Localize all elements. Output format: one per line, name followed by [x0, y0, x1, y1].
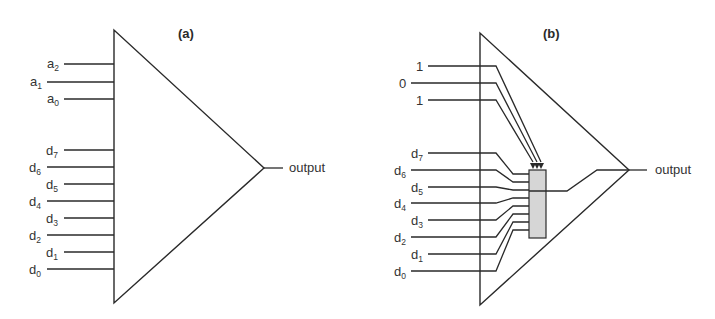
label-b-d2: d2 — [394, 230, 406, 247]
label-d4: d4 — [29, 194, 41, 211]
label-a0: a0 — [47, 91, 59, 108]
label-b-d1: d1 — [411, 247, 423, 264]
mux-triangle-b — [480, 33, 629, 305]
label-a1: a1 — [30, 74, 42, 91]
label-b-d6: d6 — [394, 163, 406, 180]
wire-b-d3 — [428, 206, 529, 220]
label-d7: d7 — [46, 143, 58, 160]
address-value-1: 0 — [399, 76, 406, 91]
panel-a-label: (a) — [178, 26, 194, 41]
output-label-b: output — [655, 162, 692, 177]
label-d0: d0 — [29, 262, 41, 279]
label-d3: d3 — [46, 211, 58, 228]
label-b-d7: d7 — [411, 146, 423, 163]
label-b-d4: d4 — [394, 196, 406, 213]
panel-b-label: (b) — [543, 26, 560, 41]
label-b-d0: d0 — [394, 264, 406, 281]
label-d6: d6 — [29, 160, 41, 177]
address-value-0: 1 — [416, 93, 423, 108]
wire-b-d4 — [411, 198, 529, 203]
label-d5: d5 — [46, 177, 58, 194]
selector-switch-box — [529, 170, 546, 238]
label-b-d3: d3 — [411, 213, 423, 230]
label-b-d5: d5 — [411, 180, 423, 197]
mux-triangle-a — [114, 30, 264, 303]
address-value-2: 1 — [416, 59, 423, 74]
label-d1: d1 — [46, 245, 58, 262]
panel-b: (b) 1 0 1 d7 d6 d5 d4 d3 d2 d1 d0 — [394, 26, 692, 305]
label-a2: a2 — [47, 56, 59, 73]
output-label-a: output — [289, 160, 326, 175]
wire-b-d5 — [428, 187, 529, 190]
wire-b-d7 — [428, 153, 529, 174]
wire-addr-1 — [411, 83, 537, 162]
arrowhead-icon — [538, 163, 544, 169]
wire-b-d1 — [428, 222, 529, 254]
wire-b-d0 — [411, 230, 529, 271]
panel-a: (a) a2 a1 a0 d7 d6 d5 d4 d3 d2 d1 d0 out… — [29, 26, 326, 303]
label-d2: d2 — [29, 228, 41, 245]
multiplexer-diagram: (a) a2 a1 a0 d7 d6 d5 d4 d3 d2 d1 d0 out… — [0, 0, 715, 319]
